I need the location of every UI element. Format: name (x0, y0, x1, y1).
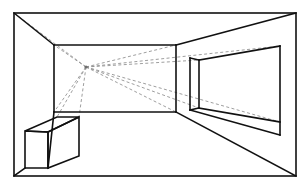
room-perspective-svg (0, 0, 308, 192)
vanishing-point-marker-icon (84, 65, 87, 68)
perspective-drawing-canvas (0, 0, 308, 192)
canvas-background (0, 0, 308, 192)
